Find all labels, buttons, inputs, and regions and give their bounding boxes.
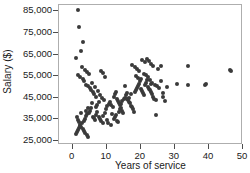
x-axis-tick-label: 50 bbox=[227, 150, 250, 161]
data-point bbox=[104, 107, 108, 111]
data-point bbox=[86, 135, 90, 139]
data-point bbox=[137, 69, 141, 73]
data-point bbox=[175, 82, 179, 86]
x-axis-tick-label: 10 bbox=[91, 150, 121, 161]
data-point bbox=[95, 103, 99, 107]
y-axis-tick-mark bbox=[53, 54, 58, 55]
data-point bbox=[77, 25, 81, 29]
data-point bbox=[93, 118, 97, 122]
x-axis-tick-mark bbox=[242, 144, 243, 149]
data-point bbox=[149, 82, 153, 86]
data-point bbox=[186, 64, 190, 68]
data-point bbox=[204, 82, 208, 86]
x-axis-tick-mark bbox=[106, 144, 107, 149]
data-point bbox=[90, 81, 94, 85]
data-point bbox=[129, 92, 133, 96]
data-point bbox=[157, 86, 161, 90]
data-point bbox=[161, 95, 165, 99]
y-axis-tick-label: 35,000 bbox=[8, 113, 52, 123]
data-point bbox=[154, 113, 158, 117]
data-point bbox=[102, 98, 106, 102]
data-point bbox=[114, 90, 118, 94]
x-axis-tick-mark bbox=[174, 144, 175, 149]
x-axis-tick-label: 0 bbox=[57, 150, 87, 161]
data-point bbox=[186, 83, 190, 87]
y-axis-tick-label: 55,000 bbox=[8, 70, 52, 80]
y-axis-tick-mark bbox=[53, 75, 58, 76]
data-point bbox=[123, 84, 127, 88]
data-point bbox=[79, 49, 83, 53]
data-point bbox=[142, 93, 146, 97]
data-point bbox=[81, 40, 85, 44]
x-axis-tick-mark bbox=[208, 144, 209, 149]
data-point bbox=[90, 101, 94, 105]
y-axis-tick-labels: 25,00035,00045,00055,00065,00075,00085,0… bbox=[8, 0, 52, 173]
data-point bbox=[163, 99, 167, 103]
data-point bbox=[74, 56, 78, 60]
data-point bbox=[84, 109, 88, 113]
x-axis-tick-label: 20 bbox=[125, 150, 155, 161]
data-point bbox=[159, 79, 163, 83]
y-axis-tick-mark bbox=[53, 118, 58, 119]
data-point bbox=[110, 112, 114, 116]
data-point bbox=[132, 110, 136, 114]
data-point bbox=[116, 120, 120, 124]
x-axis-tick-mark bbox=[72, 144, 73, 149]
data-point bbox=[229, 69, 233, 73]
y-axis-tick-mark bbox=[53, 10, 58, 11]
data-point bbox=[103, 111, 107, 115]
x-axis-tick-label: 40 bbox=[193, 150, 223, 161]
y-axis-tick-mark bbox=[53, 97, 58, 98]
y-axis-tick-label: 45,000 bbox=[8, 92, 52, 102]
scatter-plot-figure: Salary ($) 25,00035,00045,00055,00065,00… bbox=[0, 0, 250, 173]
x-axis-tick-label: 30 bbox=[159, 150, 189, 161]
data-point bbox=[95, 110, 99, 114]
y-axis-tick-label: 25,000 bbox=[8, 135, 52, 145]
data-point bbox=[87, 72, 91, 76]
y-axis-tick-label: 65,000 bbox=[8, 49, 52, 59]
data-point bbox=[121, 111, 125, 115]
data-point bbox=[76, 8, 80, 12]
x-axis-tick-mark bbox=[140, 144, 141, 149]
y-axis-tick-mark bbox=[53, 32, 58, 33]
data-point bbox=[103, 75, 107, 79]
data-point bbox=[151, 64, 155, 68]
data-point bbox=[165, 85, 169, 89]
x-axis-title: Years of service bbox=[58, 160, 243, 171]
y-axis-tick-mark bbox=[53, 140, 58, 141]
data-point bbox=[89, 106, 93, 110]
data-point bbox=[111, 105, 115, 109]
data-point bbox=[139, 77, 143, 81]
data-point bbox=[159, 64, 163, 68]
data-point bbox=[109, 123, 113, 127]
y-axis-tick-label: 75,000 bbox=[8, 27, 52, 37]
data-point bbox=[127, 96, 131, 100]
data-point bbox=[154, 98, 158, 102]
data-point bbox=[101, 121, 105, 125]
plot-area bbox=[58, 4, 242, 144]
y-axis-tick-label: 85,000 bbox=[8, 5, 52, 15]
data-point bbox=[79, 111, 83, 115]
